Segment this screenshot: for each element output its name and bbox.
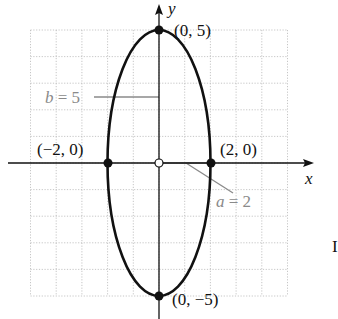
ellipse-diagram: y x (0, 5) (0, −5) (−2, 0) (2, 0) b = 5 … [0,0,338,319]
edge-text-fragment: I [332,237,338,256]
b-annotation: b = 5 [45,88,80,107]
x-axis-label: x [304,169,313,188]
label-top: (0, 5) [174,21,211,40]
label-left: (−2, 0) [37,140,83,159]
point-right [207,159,216,168]
point-left [104,159,113,168]
label-right: (2, 0) [220,140,257,159]
a-annotation: a = 2 [216,192,251,211]
y-axis-label: y [166,0,176,18]
label-bottom: (0, −5) [172,290,218,309]
point-bottom [155,292,164,301]
point-center [155,159,163,167]
point-top [155,26,164,35]
